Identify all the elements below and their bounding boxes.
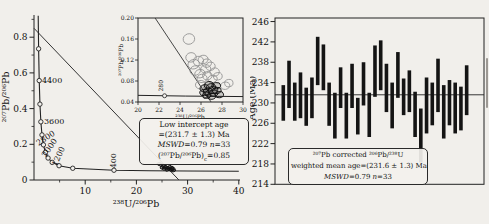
age-bars: [282, 37, 469, 163]
svg-text:0.2: 0.2: [13, 139, 27, 149]
svg-text:20: 20: [134, 106, 142, 113]
age-bar: [459, 87, 463, 131]
svg-text:3600: 3600: [44, 117, 64, 126]
svg-text:0.8: 0.8: [13, 32, 28, 42]
svg-text:²³⁸U/²⁰⁶Pb: ²³⁸U/²⁰⁶Pb: [113, 198, 160, 209]
age-bar: [350, 64, 354, 108]
svg-text:214: 214: [252, 179, 269, 189]
scan-artifact: [486, 58, 488, 108]
age-bar: [408, 70, 412, 112]
annotation-line: =(231.7 ± 1.3) Ma: [142, 130, 246, 140]
age-bar: [310, 77, 314, 118]
age-bar: [465, 65, 469, 115]
svg-text:10: 10: [79, 186, 91, 196]
svg-text:30: 30: [239, 106, 247, 113]
age-bar: [385, 64, 389, 112]
concordia-diagram: 10203040²³⁸U/²⁰⁶Pb00.20.40.60.8²⁰⁷Pb/²⁰⁶…: [0, 0, 250, 224]
age-bar: [299, 72, 303, 118]
age-bar: [396, 52, 400, 98]
low-intercept-annotation: Low intercept age =(231.7 ± 1.3) Ma MSWD…: [139, 118, 249, 165]
age-bar: [453, 83, 457, 134]
svg-text:Age (Ma): Age (Ma): [250, 76, 257, 121]
age-bar: [304, 88, 308, 126]
svg-text:238: 238: [252, 57, 269, 67]
age-bar: [448, 80, 452, 125]
age-bar: [413, 92, 417, 137]
annotation-line: weighted mean age=(231.6 ± 1.3) Ma: [291, 161, 425, 172]
svg-text:22: 22: [155, 106, 163, 113]
svg-text:242: 242: [252, 37, 269, 47]
svg-text:218: 218: [252, 159, 269, 169]
y-axis: 00.20.40.60.8²⁰⁷Pb/²⁰⁶Pb: [0, 19, 34, 185]
age-bar: [442, 85, 446, 138]
age-bar: [293, 83, 297, 121]
svg-text:26: 26: [197, 106, 205, 113]
svg-text:400: 400: [109, 153, 118, 168]
age-bar: [345, 93, 349, 139]
figure: 10203040²³⁸U/²⁰⁶Pb00.20.40.60.8²⁰⁷Pb/²⁰⁶…: [0, 0, 489, 224]
age-bar: [430, 83, 434, 126]
svg-text:²⁰⁷Pb/²⁰⁶Pb: ²⁰⁷Pb/²⁰⁶Pb: [0, 72, 11, 123]
age-bar: [339, 67, 343, 108]
svg-text:0.04: 0.04: [121, 98, 135, 105]
age-bar: [402, 79, 406, 116]
age-bar: [373, 45, 377, 96]
age-bar: [436, 59, 440, 112]
age-bar: [316, 37, 320, 85]
svg-text:0.16: 0.16: [121, 35, 135, 42]
age-bar: [356, 98, 360, 135]
weighted-mean-chart: 214218222226230234238242246Age (Ma): [250, 0, 489, 224]
svg-text:246: 246: [252, 17, 269, 27]
svg-text:28: 28: [218, 106, 226, 113]
annotation-line: Low intercept age: [142, 120, 246, 130]
age-bar: [379, 40, 383, 90]
svg-text:222: 222: [252, 139, 269, 149]
svg-text:0.6: 0.6: [13, 68, 28, 78]
annotation-line: (²⁰⁷Pb/²⁰⁶Pb)c=0.85: [142, 151, 246, 164]
svg-text:0.20: 0.20: [121, 14, 135, 21]
svg-text:280: 280: [157, 80, 164, 92]
svg-text:40: 40: [233, 186, 245, 196]
inset: 202224262830²³⁸U/²⁰⁶Pb0.040.080.120.160.…: [117, 14, 247, 120]
age-bar: [333, 93, 337, 139]
weighted-mean-annotation: ²⁰⁷Pb corrected ²⁰⁶Pb/²³⁸U weighted mean…: [288, 148, 428, 185]
svg-text:20: 20: [131, 186, 143, 196]
annotation-line: MSWD=0.79 n=33: [142, 140, 246, 150]
inset-y-axis: 0.040.080.120.160.20²⁰⁷Pb/²⁰⁶Pb: [117, 14, 138, 105]
x-axis: 10203040²³⁸U/²⁰⁶Pb: [60, 180, 245, 209]
age-bar: [425, 77, 429, 133]
svg-text:²⁰⁷Pb/²⁰⁶Pb: ²⁰⁷Pb/²⁰⁶Pb: [117, 44, 124, 76]
svg-text:0: 0: [22, 175, 28, 185]
age-bar: [287, 61, 291, 108]
age-bar: [327, 83, 331, 126]
age-bar: [390, 83, 394, 129]
annotation-line: MSWD=0.79 n=33: [291, 172, 425, 183]
svg-text:24: 24: [176, 106, 184, 113]
y-axis: 214218222226230234238242246Age (Ma): [250, 17, 275, 190]
svg-text:0.08: 0.08: [121, 77, 135, 84]
age-bar: [367, 93, 371, 137]
annotation-line: ²⁰⁷Pb corrected ²⁰⁶Pb/²³⁸U: [291, 150, 425, 161]
svg-text:4400: 4400: [42, 76, 62, 85]
svg-text:0.4: 0.4: [13, 104, 28, 114]
age-bar: [362, 62, 366, 105]
svg-text:30: 30: [182, 186, 194, 196]
age-bar: [322, 44, 326, 90]
age-bar: [282, 85, 286, 121]
